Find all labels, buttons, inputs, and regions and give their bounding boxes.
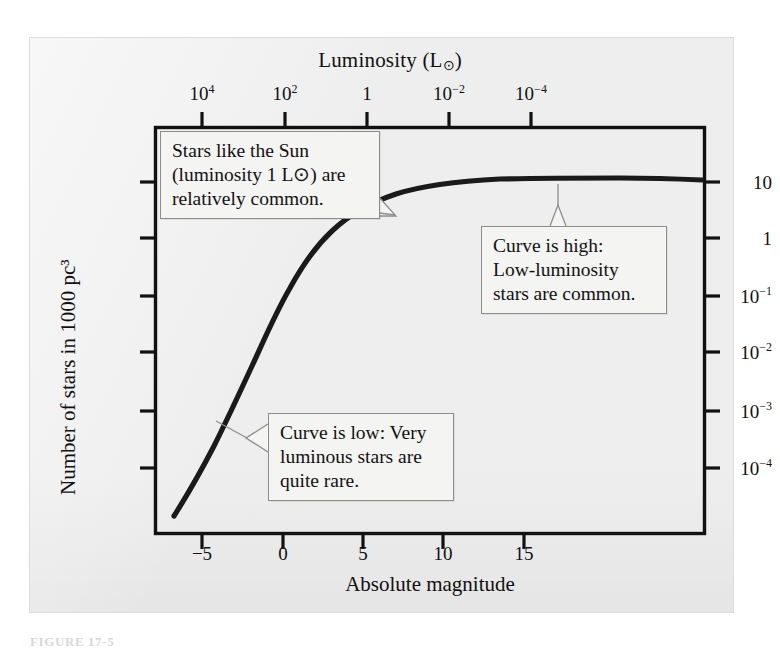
- annotation-high: Curve is high: Low-luminosity stars are …: [481, 226, 667, 314]
- top-tick-label-1: 1: [362, 84, 372, 103]
- annotation-high-pointer: [550, 205, 566, 226]
- annotation-sun: Stars like the Sun (luminosity 1 L⊙) are…: [160, 131, 380, 219]
- annotation-sun-line-1: Stars like the Sun: [172, 139, 369, 163]
- top-axis-title-close: ): [455, 48, 462, 72]
- y-tick-label-1e-4: 10−4: [638, 459, 780, 478]
- bottom-tick-label-0: 0: [278, 544, 288, 563]
- x-axis-title: Absolute magnitude: [155, 574, 705, 595]
- bottom-tick-label-15: 15: [515, 544, 534, 563]
- tick-exponent: 4: [209, 82, 215, 96]
- tick-mantissa: 10: [740, 401, 759, 422]
- top-tick-label-1e2: 102: [273, 84, 298, 103]
- bottom-tick-label-10: 10: [434, 544, 453, 563]
- tick-mantissa: 10: [740, 342, 759, 363]
- annotation-high-line-1: Curve is high:: [493, 234, 656, 258]
- annotation-low-line-1: Curve is low: Very: [280, 421, 443, 445]
- y-tick-label-10: 10: [638, 173, 780, 192]
- tick-exponent: −1: [759, 284, 772, 298]
- annotation-low-line-3: quite rare.: [280, 469, 443, 493]
- top-axis-title-base: Luminosity (L: [318, 48, 443, 72]
- figure-caption-label: FIGURE 17-5: [30, 634, 114, 650]
- left-axis-ticks: [140, 182, 155, 468]
- annotation-low-line-2: luminous stars are: [280, 445, 443, 469]
- tick-mantissa: 1: [362, 83, 372, 104]
- tick-exponent: −4: [534, 82, 547, 96]
- tick-mantissa: 10: [753, 172, 772, 193]
- tick-exponent: 2: [292, 82, 298, 96]
- tick-mantissa: 10: [190, 83, 209, 104]
- top-tick-label-1e-2: 10−2: [433, 84, 465, 103]
- y-axis-title: Number of stars in 1000 pc³: [58, 259, 79, 495]
- tick-exponent: −3: [759, 399, 772, 413]
- tick-mantissa: 10: [273, 83, 292, 104]
- right-axis-ticks: [705, 182, 720, 468]
- tick-mantissa: 1: [763, 228, 773, 249]
- annotation-low: Curve is low: Very luminous stars are qu…: [268, 413, 454, 501]
- y-tick-label-1e-3: 10−3: [638, 402, 780, 421]
- tick-mantissa: 10: [740, 286, 759, 307]
- tick-exponent: −4: [759, 456, 772, 470]
- tick-exponent: −2: [759, 340, 772, 354]
- annotation-sun-line-2: (luminosity 1 L⊙) are: [172, 163, 369, 187]
- top-tick-label-1e-4: 10−4: [515, 84, 547, 103]
- annotation-low-pointer: [246, 424, 268, 452]
- tick-mantissa: 10: [515, 83, 534, 104]
- y-tick-label-1e-2: 10−2: [638, 343, 780, 362]
- bottom-tick-label--5: −5: [192, 544, 212, 563]
- tick-exponent: −2: [452, 82, 465, 96]
- tick-mantissa: 10: [433, 83, 452, 104]
- annotation-high-line-3: stars are common.: [493, 282, 656, 306]
- chart-plot: [0, 0, 780, 651]
- annotation-sun-line-3: relatively common.: [172, 187, 369, 211]
- tick-mantissa: 10: [740, 458, 759, 479]
- annotation-high-line-2: Low-luminosity: [493, 258, 656, 282]
- top-axis-ticks: [202, 112, 531, 127]
- top-axis-title: Luminosity (L⊙): [0, 50, 780, 73]
- bottom-tick-label-5: 5: [358, 544, 368, 563]
- sun-symbol-icon: ⊙: [443, 58, 455, 73]
- top-tick-label-1e4: 104: [190, 84, 215, 103]
